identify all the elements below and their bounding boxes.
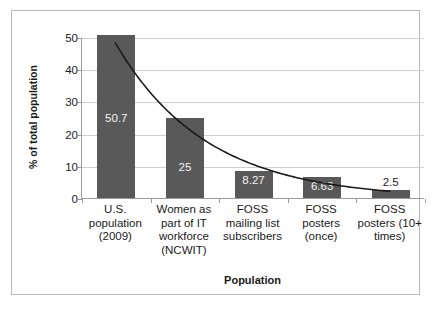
y-axis-tick-label: 50 (56, 33, 78, 43)
y-axis-tick-label: 30 (56, 97, 78, 107)
y-axis-tick-mark (78, 135, 82, 136)
chart-frame: % of total population 01020304050 50.725… (11, 10, 420, 295)
x-axis-category-label-line: FOSS (355, 203, 424, 217)
x-axis-category-label-line: part of IT (150, 217, 219, 231)
y-axis-tick-mark (78, 38, 82, 39)
x-axis-category-label-line: FOSS (287, 203, 356, 217)
x-axis-category-label: U.S.population(2009) (81, 203, 150, 244)
y-axis-tick-labels: 01020304050 (54, 11, 78, 312)
x-axis-category-labels: U.S.population(2009)Women aspart of ITwo… (81, 203, 424, 273)
x-axis-title: Population (81, 274, 424, 286)
y-axis-tick-label: 10 (56, 162, 78, 172)
x-axis-category-label-line: FOSS (218, 203, 287, 217)
x-axis-category-label-line: times) (355, 230, 424, 244)
x-axis-category-label: Women aspart of ITworkforce(NCWIT) (150, 203, 219, 257)
y-axis-tick-label: 0 (56, 194, 78, 204)
bar-data-label: 2.5 (361, 176, 421, 188)
x-axis-category-label: FOSSposters (10+times) (355, 203, 424, 244)
x-axis-category-label-line: population (81, 217, 150, 231)
bar[interactable] (166, 118, 204, 199)
x-axis-category-label-line: posters (10+ (355, 217, 424, 231)
x-axis-category-label-line: (once) (287, 230, 356, 244)
x-axis-category-label-line: Women as (150, 203, 219, 217)
bar-data-label: 50.7 (86, 112, 146, 124)
y-axis-tick-label: 40 (56, 65, 78, 75)
x-axis-category-label-line: posters (287, 217, 356, 231)
x-axis-tick-mark (425, 199, 426, 203)
y-axis-tick-mark (78, 102, 82, 103)
y-axis-title: % of total population (26, 47, 40, 187)
x-axis-category-label-line: mailing list (218, 217, 287, 231)
x-axis-category-label-line: workforce (150, 230, 219, 244)
x-axis-category-label-line: (NCWIT) (150, 244, 219, 258)
y-axis-tick-mark (78, 70, 82, 71)
x-axis-category-label-line: U.S. (81, 203, 150, 217)
bar-data-label: 8.27 (224, 174, 284, 186)
x-axis-category-label: FOSSposters(once) (287, 203, 356, 244)
bar-data-label: 6.63 (292, 180, 352, 192)
bar-data-label: 25 (155, 161, 215, 173)
x-axis-category-label-line: (2009) (81, 230, 150, 244)
x-axis-category-label: FOSSmailing listsubscribers (218, 203, 287, 244)
y-axis-tick-label: 20 (56, 130, 78, 140)
y-axis-tick-mark (78, 167, 82, 168)
x-axis-category-label-line: subscribers (218, 230, 287, 244)
plot-area: 50.7258.276.632.5 (81, 38, 424, 199)
bar[interactable] (372, 190, 410, 198)
